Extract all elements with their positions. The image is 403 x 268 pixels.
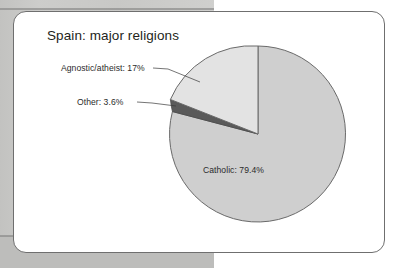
pie-label-catholic: Catholic: 79.4% bbox=[203, 165, 264, 175]
pie-label-agnostic-atheist: Agnostic/atheist: 17% bbox=[61, 63, 145, 73]
leader-line-other bbox=[137, 102, 176, 106]
pie-chart bbox=[0, 0, 403, 268]
page-scan: Spain: major religions Agnostic/atheist:… bbox=[0, 0, 403, 268]
pie-label-other: Other: 3.6% bbox=[77, 97, 123, 107]
